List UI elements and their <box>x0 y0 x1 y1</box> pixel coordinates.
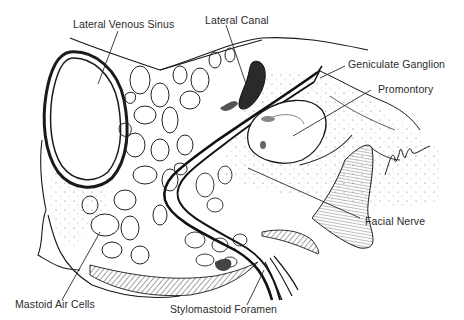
temporal-bone-illustration <box>0 0 464 320</box>
label-stylomastoid-foramen: Stylomastoid Foramen <box>170 303 277 315</box>
label-lateral-canal: Lateral Canal <box>205 14 269 26</box>
label-promontory: Promontory <box>378 83 433 95</box>
label-mastoid-air-cells: Mastoid Air Cells <box>15 298 95 310</box>
hatched-sheath <box>90 230 319 296</box>
lateral-venous-sinus-shape <box>44 52 127 187</box>
anatomy-figure: Lateral Venous Sinus Lateral Canal Genic… <box>0 0 464 320</box>
label-geniculate-ganglion: Geniculate Ganglion <box>348 58 445 70</box>
canal-shade <box>220 101 238 111</box>
label-facial-nerve: Facial Nerve <box>365 215 425 227</box>
label-lateral-venous-sinus: Lateral Venous Sinus <box>73 18 174 30</box>
